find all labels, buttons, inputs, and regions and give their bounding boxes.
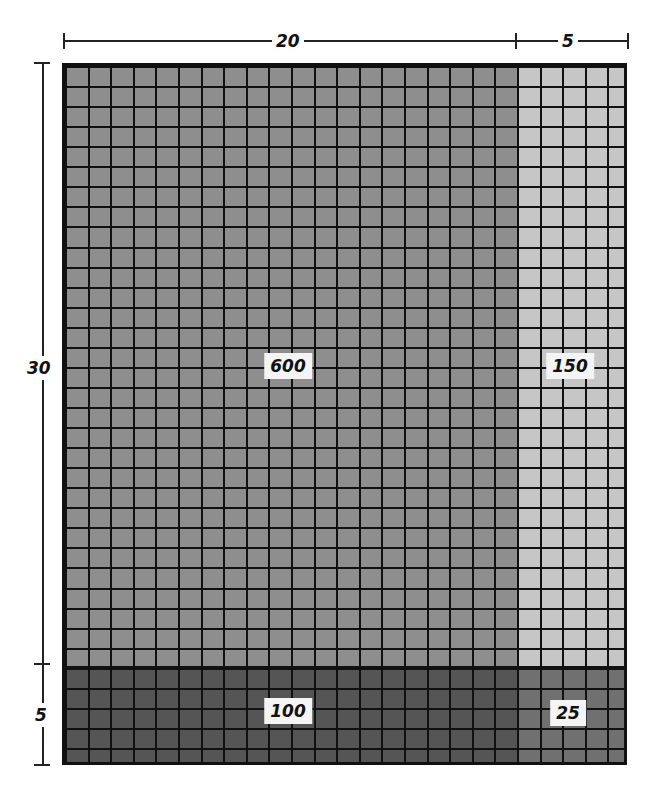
top-tick-mid: [515, 33, 517, 49]
top-dimension-line: [63, 40, 628, 42]
left-tick-mid: [34, 663, 50, 665]
left-tick-bottom: [34, 764, 50, 766]
value-label-150: 150: [546, 353, 594, 379]
top-dimension-label-20: 20: [272, 31, 304, 51]
left-dimension-label-30: 30: [25, 356, 53, 380]
value-label-25: 25: [550, 700, 586, 726]
grid-lines: [65, 66, 624, 762]
top-tick-right: [627, 33, 629, 49]
left-tick-top: [34, 62, 50, 64]
value-label-600: 600: [264, 353, 312, 379]
left-dimension-line: [42, 63, 44, 765]
value-label-100: 100: [264, 698, 312, 724]
left-dimension-label-5: 5: [33, 703, 49, 727]
top-dimension-label-5: 5: [558, 31, 578, 51]
top-tick-left: [63, 33, 65, 49]
region-divider-horizontal: [65, 666, 627, 669]
area-grid: [62, 63, 627, 765]
